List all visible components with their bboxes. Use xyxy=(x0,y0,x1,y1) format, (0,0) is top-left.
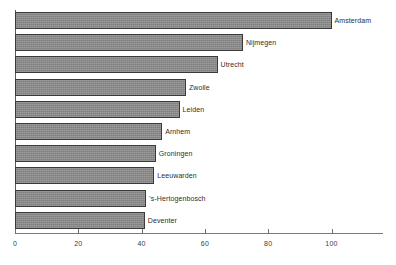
bar[interactable] xyxy=(15,12,332,29)
x-tick-mark xyxy=(78,229,79,234)
bar-row[interactable]: 's-Hertogenbosch xyxy=(15,190,385,207)
bar-chart: 020406080100 AmsterdamNijmegenUtrechtZwo… xyxy=(0,0,396,265)
bar[interactable] xyxy=(15,190,146,207)
x-tick-label: 60 xyxy=(201,240,209,247)
x-tick-label: 100 xyxy=(325,240,337,247)
bar[interactable] xyxy=(15,123,162,140)
bar[interactable] xyxy=(15,145,156,162)
x-tick-label: 20 xyxy=(74,240,82,247)
x-tick-label: 40 xyxy=(138,240,146,247)
x-tick-mark xyxy=(268,229,269,234)
bar-row[interactable]: Leiden xyxy=(15,101,385,118)
bar[interactable] xyxy=(15,79,186,96)
bar-label: Zwolle xyxy=(189,83,210,92)
bar[interactable] xyxy=(15,34,243,51)
bar-label: Groningen xyxy=(159,149,193,158)
bar-row[interactable]: Arnhem xyxy=(15,123,385,140)
x-tick-mark xyxy=(332,229,333,234)
bar-label: Deventer xyxy=(148,216,177,225)
plot-area: 020406080100 AmsterdamNijmegenUtrechtZwo… xyxy=(0,0,396,265)
bar-label: Amsterdam xyxy=(335,16,372,25)
bar[interactable] xyxy=(15,212,145,229)
x-tick-label: 0 xyxy=(13,240,17,247)
bar[interactable] xyxy=(15,101,180,118)
bar[interactable] xyxy=(15,56,218,73)
x-tick-mark xyxy=(15,229,16,234)
bar-label: Utrecht xyxy=(221,60,244,69)
x-axis-line xyxy=(15,233,383,234)
bar-label: Leiden xyxy=(183,105,205,114)
bar-label: Nijmegen xyxy=(246,38,276,47)
bar-row[interactable]: Utrecht xyxy=(15,56,385,73)
bar-label: Leeuwarden xyxy=(157,171,197,180)
bar-label: Arnhem xyxy=(165,127,190,136)
bar[interactable] xyxy=(15,167,154,184)
bar-row[interactable]: Zwolle xyxy=(15,79,385,96)
bar-row[interactable]: Groningen xyxy=(15,145,385,162)
x-tick-label: 80 xyxy=(264,240,272,247)
bar-label: 's-Hertogenbosch xyxy=(149,194,205,203)
x-tick-mark xyxy=(205,229,206,234)
x-tick-mark xyxy=(142,229,143,234)
bar-row[interactable]: Deventer xyxy=(15,212,385,229)
bar-row[interactable]: Amsterdam xyxy=(15,12,385,29)
bar-row[interactable]: Nijmegen xyxy=(15,34,385,51)
bar-row[interactable]: Leeuwarden xyxy=(15,167,385,184)
